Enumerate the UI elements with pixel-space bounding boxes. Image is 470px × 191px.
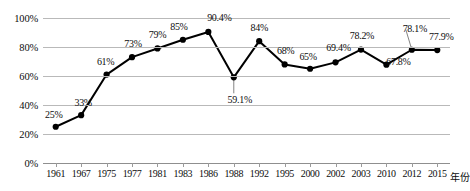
data-point-label: 90.4% — [207, 11, 231, 22]
data-point-label: 25% — [45, 108, 62, 119]
y-axis-tick-label: 100% — [0, 13, 38, 24]
x-axis-tick-mark — [208, 163, 209, 167]
x-axis-tick-mark — [386, 163, 387, 167]
y-axis-tick-label: 60% — [0, 71, 38, 82]
y-axis-tick-label: 80% — [0, 42, 38, 53]
data-point-label: 67.8% — [386, 55, 410, 66]
x-axis-tick-label: 1981 — [148, 168, 167, 179]
data-point-label: 77.9% — [429, 31, 453, 42]
data-point-marker — [205, 29, 211, 35]
x-axis-title: 年份 — [450, 169, 470, 184]
data-point-marker — [53, 124, 59, 130]
data-point-label: 79% — [149, 29, 166, 40]
data-point-marker — [282, 61, 288, 67]
x-axis-tick-mark — [412, 163, 413, 167]
x-axis-tick-label: 2015 — [428, 168, 447, 179]
data-point-label: 33% — [74, 97, 91, 108]
gridline — [43, 105, 450, 106]
x-axis-tick-mark — [336, 163, 337, 167]
y-axis-tick-label: 0% — [0, 158, 38, 169]
data-point-label: 65% — [299, 50, 316, 61]
data-point-label: 59.1% — [228, 94, 252, 105]
data-point-marker — [332, 59, 338, 65]
x-axis-tick-mark — [259, 163, 260, 167]
data-point-marker — [78, 112, 84, 118]
x-axis-tick-label: 1988 — [224, 168, 243, 179]
x-axis-tick-mark — [183, 163, 184, 167]
gridline — [43, 134, 450, 135]
data-point-label: 78.1% — [403, 22, 427, 33]
data-point-label: 85% — [170, 20, 187, 31]
gridline — [43, 163, 450, 164]
x-axis-tick-label: 2002 — [326, 168, 345, 179]
data-point-label: 68% — [277, 45, 294, 56]
x-axis-tick-mark — [437, 163, 438, 167]
x-axis-tick-mark — [310, 163, 311, 167]
data-point-label: 84% — [251, 22, 268, 33]
data-point-label: 61% — [97, 55, 114, 66]
plot-area: 25%33%61%73%79%85%90.4%59.1%84%68%65%69.… — [43, 18, 450, 163]
gridline — [43, 47, 450, 48]
x-axis-tick-label: 2000 — [301, 168, 320, 179]
data-point-marker — [256, 38, 262, 44]
x-axis-tick-mark — [361, 163, 362, 167]
y-axis-tick-label: 40% — [0, 100, 38, 111]
gridline — [43, 18, 450, 19]
x-axis-tick-labels: 1961196719751977198119831986198819921995… — [43, 168, 450, 186]
x-axis-tick-label: 1995 — [275, 168, 294, 179]
data-point-marker — [180, 37, 186, 43]
data-point-marker — [129, 54, 135, 60]
x-axis-tick-mark — [107, 163, 108, 167]
x-axis-tick-label: 1977 — [123, 168, 142, 179]
x-axis-tick-label: 1975 — [97, 168, 116, 179]
data-point-marker — [307, 66, 313, 72]
series-line — [43, 18, 450, 163]
x-axis-tick-label: 1986 — [199, 168, 218, 179]
x-axis-tick-label: 1967 — [72, 168, 91, 179]
data-point-label: 78.2% — [350, 29, 374, 40]
x-axis-tick-label: 1992 — [250, 168, 269, 179]
data-point-label: 73% — [124, 38, 141, 49]
x-axis-tick-mark — [81, 163, 82, 167]
x-axis-tick-mark — [234, 163, 235, 167]
x-axis-tick-label: 2012 — [402, 168, 421, 179]
x-axis-tick-label: 1983 — [174, 168, 193, 179]
data-point-label: 69.4% — [326, 42, 350, 53]
x-axis-tick-mark — [56, 163, 57, 167]
y-axis-tick-label: 20% — [0, 129, 38, 140]
x-axis-tick-mark — [157, 163, 158, 167]
gridline — [43, 76, 450, 77]
line-chart: 0%20%40%60%80%100% 25%33%61%73%79%85%90.… — [0, 0, 470, 191]
y-axis-tick-labels: 0%20%40%60%80%100% — [0, 18, 43, 163]
x-axis-tick-label: 2010 — [377, 168, 396, 179]
x-axis-tick-mark — [285, 163, 286, 167]
x-axis-tick-mark — [132, 163, 133, 167]
x-axis-tick-label: 1961 — [46, 168, 65, 179]
x-axis-tick-label: 2003 — [352, 168, 371, 179]
